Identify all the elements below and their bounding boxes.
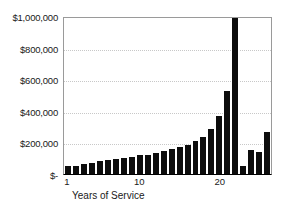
bar [223,91,231,174]
bar [128,157,136,174]
bar-series [64,18,271,174]
x-axis-title: Years of Service [63,190,272,201]
bar [215,116,223,174]
plot-area [63,17,272,175]
bar [88,163,96,174]
bar [231,18,239,174]
bar [255,152,263,174]
bar [136,155,144,174]
bar [64,166,72,174]
y-axis-tick-labels: $1,000,000$800,000$600,000$400,000$200,0… [0,0,62,212]
bar [152,153,160,174]
bar [184,145,192,174]
y-axis-tick-label: $400,000 [20,106,58,117]
x-axis-tick-label: 1 [64,176,69,187]
bar [144,155,152,174]
y-axis-tick-label: $600,000 [20,75,58,86]
y-axis-tick-label: $800,000 [20,43,58,54]
x-axis-tick-label: 10 [134,176,145,187]
y-axis-tick-label: $200,000 [20,138,58,149]
bar [80,164,88,174]
bar [104,160,112,174]
bar [199,137,207,174]
bar [176,147,184,174]
y-axis-tick-label: $1,000,000 [12,12,58,23]
bar [160,151,168,174]
bar [247,150,255,174]
bar [207,129,215,175]
bar [112,159,120,174]
bar [72,166,80,174]
y-axis-tick-label: $- [50,170,58,181]
bar [96,161,104,174]
x-axis-tick-label: 20 [214,176,225,187]
x-axis-tick-labels: 11020 [63,176,272,190]
bar [120,158,128,174]
bar [263,132,271,174]
bar [168,149,176,174]
bar-chart: $1,000,000$800,000$600,000$400,000$200,0… [0,0,296,212]
bar [192,141,200,174]
bar [239,166,247,174]
